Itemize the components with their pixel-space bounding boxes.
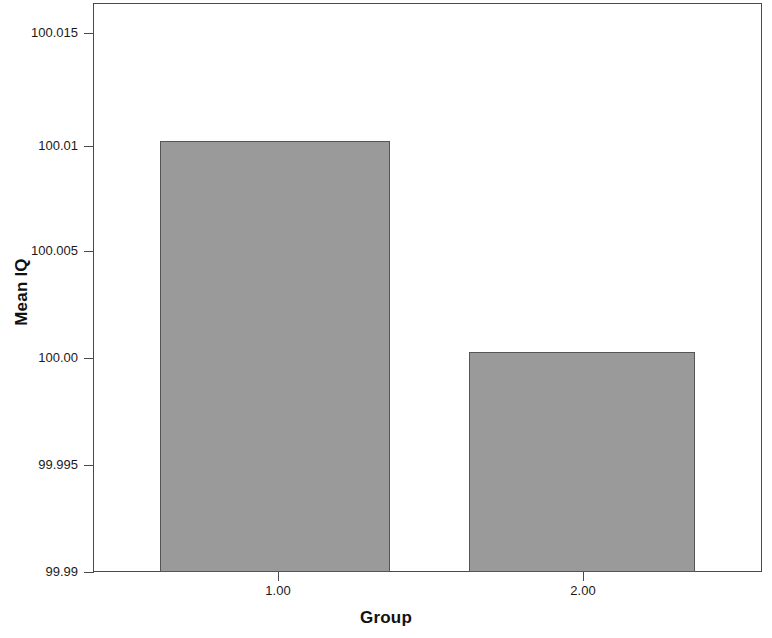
y-tick-mark <box>84 251 94 252</box>
y-tick-mark <box>84 358 94 359</box>
y-tick-label: 100.00 <box>38 351 78 364</box>
y-tick-label: 99.995 <box>38 458 78 471</box>
bar-group-2[interactable] <box>469 352 695 572</box>
x-tick-mark <box>278 572 279 581</box>
x-axis-title: Group <box>0 608 772 628</box>
x-tick-mark <box>583 572 584 581</box>
y-tick-label: 100.005 <box>31 244 78 257</box>
x-tick-label: 1.00 <box>265 584 290 597</box>
y-axis-title-text: Mean IQ <box>12 258 32 326</box>
y-tick-mark <box>84 465 94 466</box>
bar-chart: Mean IQ 100.015 100.01 100.005 100.00 99… <box>0 0 772 638</box>
y-tick-label: 99.99 <box>45 565 78 578</box>
y-tick-mark <box>84 572 94 573</box>
y-tick-mark <box>84 146 94 147</box>
y-tick-label: 100.01 <box>38 139 78 152</box>
bar-group-1[interactable] <box>160 141 390 572</box>
y-tick-label: 100.015 <box>31 26 78 39</box>
y-tick-mark <box>84 33 94 34</box>
x-tick-label: 2.00 <box>570 584 595 597</box>
